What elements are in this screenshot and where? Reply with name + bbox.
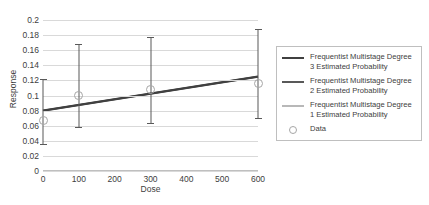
x-axis-title: Dose <box>43 184 258 194</box>
legend-line-icon <box>281 100 305 111</box>
y-axis-tick-label: 0.1 <box>27 91 39 100</box>
x-axis-tick-label: 500 <box>215 175 229 184</box>
y-axis-tick-label: 0.12 <box>22 76 39 85</box>
error-bar <box>150 37 151 125</box>
legend-item-label: Data <box>310 124 417 134</box>
plot-area: 00.020.040.060.080.10.120.140.160.180.20… <box>43 20 258 171</box>
error-bar <box>78 44 79 128</box>
legend-item-label: Frequentist Multistage Degree 3 Estimate… <box>310 52 417 72</box>
legend-item-label: Frequentist Multistage Degree 1 Estimate… <box>310 100 417 120</box>
legend-item: Frequentist Multistage Degree 3 Estimate… <box>281 52 417 72</box>
error-bar-cap-top <box>40 79 47 80</box>
y-axis-tick-label: 0.02 <box>22 152 39 161</box>
x-axis-tick-label: 300 <box>143 175 157 184</box>
y-axis-title: Response <box>8 54 18 124</box>
data-point-marker <box>146 85 155 94</box>
line-swatch-icon <box>282 81 304 83</box>
error-bar <box>43 79 44 145</box>
y-axis-tick-label: 0.06 <box>22 121 39 130</box>
x-axis-tick-label: 200 <box>108 175 122 184</box>
gridline-y <box>43 171 258 172</box>
chart-legend: Frequentist Multistage Degree 3 Estimate… <box>276 46 422 141</box>
legend-line-icon <box>281 76 305 87</box>
error-bar-cap-bottom <box>75 127 82 128</box>
legend-open-circle-icon <box>281 124 305 135</box>
error-bar-cap-top <box>75 44 82 45</box>
x-axis-tick-label: 0 <box>41 175 46 184</box>
open-circle-icon <box>289 126 297 134</box>
gridline-y <box>43 20 258 21</box>
error-bar-cap-bottom <box>147 123 154 124</box>
x-axis-tick-label: 100 <box>72 175 86 184</box>
data-point-marker <box>39 116 48 125</box>
legend-line-icon <box>281 52 305 63</box>
legend-item: Data <box>281 124 417 135</box>
x-axis-tick-label: 400 <box>179 175 193 184</box>
legend-item: Frequentist Multistage Degree 2 Estimate… <box>281 76 417 96</box>
y-axis-tick-label: 0.18 <box>22 31 39 40</box>
error-bar-cap-top <box>255 29 262 30</box>
y-axis-tick-label: 0.16 <box>22 46 39 55</box>
legend-item-label: Frequentist Multistage Degree 2 Estimate… <box>310 76 417 96</box>
error-bar-cap-top <box>147 37 154 38</box>
error-bar <box>258 29 259 119</box>
legend-item: Frequentist Multistage Degree 1 Estimate… <box>281 100 417 120</box>
error-bar-cap-bottom <box>40 144 47 145</box>
line-swatch-icon <box>282 57 304 59</box>
line-swatch-icon <box>282 105 304 106</box>
y-axis-tick-label: 0.14 <box>22 61 39 70</box>
error-bar-cap-bottom <box>255 118 262 119</box>
y-axis-tick-label: 0.04 <box>22 137 39 146</box>
data-point-marker <box>254 79 263 88</box>
gridline-y <box>43 141 258 142</box>
dose-response-chart: Response 00.020.040.060.080.10.120.140.1… <box>0 0 429 205</box>
x-axis-line <box>43 170 258 171</box>
y-axis-tick-label: 0 <box>34 167 39 176</box>
y-axis-tick-label: 0.2 <box>27 16 39 25</box>
gridline-y <box>43 156 258 157</box>
y-axis-tick-label: 0.08 <box>22 106 39 115</box>
x-axis-tick-label: 600 <box>251 175 265 184</box>
